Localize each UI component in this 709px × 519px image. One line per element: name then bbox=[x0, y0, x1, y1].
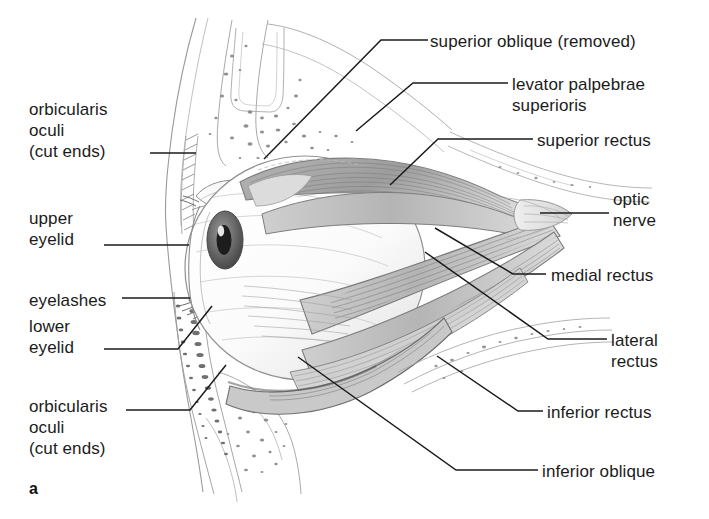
label-line: oculi bbox=[29, 120, 108, 141]
label-line: medial rectus bbox=[551, 265, 653, 286]
label-line: rectus bbox=[611, 351, 658, 372]
label-orbicularis-oculi-lower: orbicularisoculi(cut ends) bbox=[29, 396, 108, 459]
label-line: eyelid bbox=[29, 337, 74, 358]
label-line: orbicularis bbox=[29, 99, 108, 120]
label-line: superior rectus bbox=[537, 130, 651, 151]
label-line: inferior oblique bbox=[542, 461, 655, 482]
label-lower-eyelid: lowereyelid bbox=[29, 316, 74, 358]
label-line: optic bbox=[613, 189, 656, 210]
label-line: upper bbox=[29, 208, 74, 229]
label-line: inferior rectus bbox=[547, 402, 651, 423]
label-line: eyelashes bbox=[29, 290, 106, 311]
label-line: (cut ends) bbox=[29, 141, 108, 162]
label-optic-nerve: opticnerve bbox=[613, 189, 656, 231]
label-line: orbicularis bbox=[29, 396, 108, 417]
label-upper-eyelid: uppereyelid bbox=[29, 208, 74, 250]
anatomy-figure-eye-muscles: orbicularisoculi(cut ends)uppereyelideye… bbox=[0, 0, 709, 519]
label-superior-oblique: superior oblique (removed) bbox=[430, 31, 636, 52]
label-levator-palpebrae: levator palpebraesuperioris bbox=[512, 74, 645, 116]
label-line: superioris bbox=[512, 95, 645, 116]
label-line: lower bbox=[29, 316, 74, 337]
label-eyelashes: eyelashes bbox=[29, 290, 106, 311]
label-lateral-rectus: lateralrectus bbox=[611, 330, 658, 372]
label-line: eyelid bbox=[29, 229, 74, 250]
label-inferior-oblique: inferior oblique bbox=[542, 461, 655, 482]
corneal-highlight bbox=[218, 226, 224, 237]
label-line: superior oblique (removed) bbox=[430, 31, 636, 52]
label-medial-rectus: medial rectus bbox=[551, 265, 653, 286]
label-inferior-rectus: inferior rectus bbox=[547, 402, 651, 423]
label-orbicularis-oculi-upper: orbicularisoculi(cut ends) bbox=[29, 99, 108, 162]
label-line: levator palpebrae bbox=[512, 74, 645, 95]
label-superior-rectus: superior rectus bbox=[537, 130, 651, 151]
label-line: oculi bbox=[29, 417, 108, 438]
panel-letter: a bbox=[29, 480, 38, 498]
label-line: (cut ends) bbox=[29, 438, 108, 459]
label-line: lateral bbox=[611, 330, 658, 351]
label-line: nerve bbox=[613, 210, 656, 231]
